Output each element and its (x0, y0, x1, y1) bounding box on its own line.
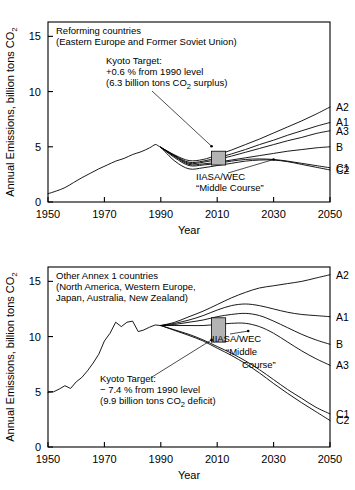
series-curve-a1 (161, 122, 330, 162)
y-tick-label: 5 (35, 386, 41, 398)
x-tick-label: 1990 (149, 208, 173, 220)
series-label-a3: A3 (336, 125, 349, 137)
panel-title: Other Annex 1 countries (56, 270, 158, 281)
historical-curve (48, 145, 161, 194)
kyoto-target-box (212, 151, 226, 165)
iiasa-leader-line (228, 159, 274, 173)
series-label-a2: A2 (336, 101, 349, 113)
y-axis-title: Annual Emissions, billion tons CO2 (4, 27, 19, 197)
svg-text:Annual Emissions, billion tons: Annual Emissions, billion tons CO2 (4, 27, 19, 197)
series-label-b: B (336, 141, 343, 153)
panel-title: Reforming countries (56, 25, 141, 36)
iiasa-annotation-line-3: Course” (242, 359, 276, 370)
x-tick-label: 1950 (36, 208, 60, 220)
iiasa-annotation-line-1: IIASA/WEC (212, 333, 261, 344)
series-label-c2: C2 (336, 164, 350, 176)
x-tick-label: 2030 (261, 208, 285, 220)
kyoto-leader-line (152, 340, 212, 377)
x-tick-label: 1970 (92, 208, 116, 220)
chart-svg-top: 051015195019701990201020302050YearAnnual… (0, 0, 355, 245)
y-tick-label: 10 (29, 86, 41, 98)
x-tick-label: 2010 (205, 208, 229, 220)
x-tick-label: 2030 (261, 453, 285, 465)
series-curve-a2 (161, 107, 330, 161)
kyoto-leader-dot (210, 145, 213, 148)
iiasa-annotation-line-2: “Middle (226, 346, 257, 357)
chart-panel-bottom: 051015195019701990201020302050YearAnnual… (0, 245, 355, 490)
series-label-a3: A3 (336, 359, 349, 371)
series-label-a1: A1 (336, 311, 349, 323)
iiasa-leader-dot (272, 158, 275, 161)
iiasa-annotation-line-2: “Middle Course” (196, 182, 264, 193)
iiasa-annotation-line-1: IIASA/WEC (196, 171, 245, 182)
chart-svg-bottom: 051015195019701990201020302050YearAnnual… (0, 245, 355, 490)
chart-panel-top: 051015195019701990201020302050YearAnnual… (0, 0, 355, 245)
series-label-c2: C2 (336, 414, 350, 426)
kyoto-annotation-line-1: Kyoto Target: (106, 55, 162, 66)
x-tick-label: 2010 (205, 453, 229, 465)
kyoto-leader-line (152, 91, 212, 146)
y-tick-label: 10 (29, 331, 41, 343)
panel-subtitle-2: Japan, Australia, New Zealand) (56, 292, 188, 303)
series-label-a2: A2 (336, 269, 349, 281)
panel-subtitle: (North America, Western Europe, (56, 281, 196, 292)
y-tick-label: 15 (29, 30, 41, 42)
kyoto-annotation-line-3: (9.9 billion tons CO2 deficit) (100, 395, 216, 409)
y-tick-label: 0 (35, 196, 41, 208)
x-axis-title: Year (178, 469, 201, 481)
y-tick-label: 0 (35, 441, 41, 453)
panel-subtitle: (Eastern Europe and Former Soviet Union) (56, 36, 237, 47)
series-label-b: B (336, 338, 343, 350)
plot-frame (48, 22, 330, 202)
x-tick-label: 1970 (92, 453, 116, 465)
kyoto-annotation-line-2: − 7.4 % from 1990 level (100, 384, 200, 395)
iiasa-leader-dot (247, 330, 250, 333)
x-tick-label: 1950 (36, 453, 60, 465)
kyoto-annotation-line-1: Kyoto Target: (100, 373, 156, 384)
y-tick-label: 5 (35, 141, 41, 153)
svg-text:Annual Emissions, billion tons: Annual Emissions, billion tons CO2 (4, 272, 19, 442)
x-axis-title: Year (178, 224, 201, 236)
y-tick-label: 15 (29, 275, 41, 287)
kyoto-annotation-line-3: (6.3 billion tons CO2 surplus) (106, 77, 227, 91)
x-tick-label: 1990 (149, 453, 173, 465)
series-curve-c2 (161, 147, 330, 170)
x-tick-label: 2050 (318, 453, 342, 465)
y-axis-title: Annual Emissions, billion tons CO2 (4, 272, 19, 442)
figure-container: 051015195019701990201020302050YearAnnual… (0, 0, 355, 490)
x-tick-label: 2050 (318, 208, 342, 220)
kyoto-annotation-line-2: +0.6 % from 1990 level (106, 66, 203, 77)
series-curve-a3 (161, 131, 330, 164)
